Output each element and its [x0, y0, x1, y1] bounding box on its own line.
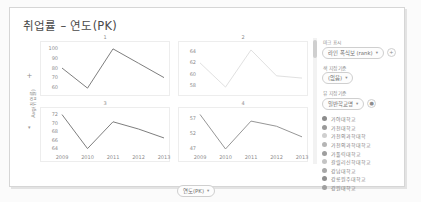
legend-item[interactable]: 갈릴리신학대학교 [322, 157, 414, 166]
x-axis-tick-label: 2011 [102, 154, 124, 160]
y-axis-tick-label: 57 [178, 116, 196, 121]
legend-color-swatch [322, 176, 327, 181]
chart-panel-2: 264626058 [178, 34, 308, 96]
x-axis-tick-label: 2012 [128, 154, 150, 160]
y-axis-tick-label: 70 [40, 121, 58, 126]
y-axis-tick-label: 60 [40, 85, 58, 90]
mark-value-pill[interactable]: 라인 폭식보 (rank) ▾ [322, 47, 384, 59]
x-axis-tick-label: 2009 [51, 154, 73, 160]
legend-item-label: 갈릴리신학대학교 [331, 158, 371, 165]
chart-panel-title: 1 [40, 34, 170, 41]
color-value-pill[interactable]: (없음) ▾ [322, 72, 353, 84]
legend-scrollbar[interactable] [313, 38, 317, 164]
x-axis-tick-label: 2013 [153, 154, 175, 160]
y-axis-caret-icon[interactable]: ▾ [28, 124, 31, 130]
chevron-down-icon: ▾ [207, 187, 209, 195]
x-axis-pill[interactable]: 연도(PK) ▾ [177, 185, 215, 197]
chart-line-series [178, 41, 308, 96]
chart-panel-4: 457524720092010201120122013 [178, 100, 308, 162]
plot-matrix: 1100908070602646260583727068666420092010… [40, 34, 308, 164]
legend-item-label: 가천대학교 [331, 124, 356, 131]
chevron-down-icon: ▾ [356, 100, 358, 108]
color-control: 색 지정 기준 (없음) ▾ [322, 64, 414, 85]
viz-card: 취업률 – 연도(PK) + Avg(취업률) ▾ 11009080706026… [9, 7, 405, 187]
legend-item[interactable]: 가천대학교 [322, 123, 414, 132]
y-axis-tick-label: 80 [40, 66, 58, 71]
legend-item[interactable]: 가톨릭대학교 [322, 149, 414, 158]
detail-more-icon[interactable]: ● [367, 99, 376, 108]
legend-color-swatch [322, 168, 327, 173]
legend-color-swatch [322, 142, 327, 147]
y-axis-tick-label: 64 [40, 146, 58, 151]
legend-item[interactable]: 가천의과학대학 [322, 132, 414, 141]
legend-item-label: 가천의과학대학 [331, 132, 366, 139]
legend-item-label: 가천의과학대학교 [331, 141, 371, 148]
y-axis-tick-label: 68 [40, 129, 58, 134]
legend-item-label: 강남대학교 [331, 167, 356, 174]
legend-color-swatch [322, 133, 327, 138]
chart-line-series [40, 41, 170, 96]
legend-item[interactable]: 강릉원주대학교 [322, 175, 414, 184]
screenshot-root: 취업률 – 연도(PK) + Avg(취업률) ▾ 11009080706026… [0, 0, 421, 202]
legend-scrollbar-thumb[interactable] [313, 40, 317, 58]
legend-color-swatch [322, 185, 327, 190]
page-title: 취업률 – 연도(PK) [23, 17, 117, 33]
legend-item-label: 가톨릭대학교 [331, 150, 361, 157]
y-axis-tick-label: 60 [178, 72, 196, 77]
y-axis-tick-label: 72 [40, 112, 58, 117]
y-axis-tick-label: 52 [178, 131, 196, 136]
detail-control: 뷰 지정 기준 일반학교명 ▾ ● [322, 89, 414, 110]
x-axis-tick-label: 2011 [240, 154, 262, 160]
chevron-down-icon: ▾ [376, 49, 378, 57]
legend-item-label: 강원대학교 [331, 184, 356, 191]
mark-control: 마크 표시 라인 폭식보 (rank) ▾ + [322, 38, 414, 59]
mark-label: 마크 표시 [323, 38, 414, 45]
y-axis-tick-label: 62 [178, 60, 196, 65]
color-legend: 가야대학교가천대학교가천의과학대학가천의과학대학교가톨릭대학교갈릴리신학대학교강… [322, 115, 414, 192]
chart-panel-title: 2 [178, 34, 308, 41]
x-axis-tick-label: 2013 [291, 154, 313, 160]
control-panel: 마크 표시 라인 폭식보 (rank) ▾ + 색 지정 기준 (없음) ▾ [322, 38, 414, 192]
legend-item[interactable]: 가야대학교 [322, 115, 414, 124]
chart-panel-title: 3 [40, 100, 170, 107]
y-axis-tick-label: 100 [40, 46, 58, 51]
x-axis-tick-label: 2009 [189, 154, 211, 160]
x-axis-tick-label: 2010 [215, 154, 237, 160]
color-label: 색 지정 기준 [323, 64, 414, 71]
y-axis-tick-label: 64 [178, 49, 196, 54]
legend-item[interactable]: 가천의과학대학교 [322, 140, 414, 149]
color-value-label: (없음) [328, 74, 342, 82]
y-axis-tick-label: 58 [178, 83, 196, 88]
legend-color-swatch [322, 125, 327, 130]
legend-item-label: 가야대학교 [331, 115, 356, 122]
legend-color-swatch [322, 159, 327, 164]
detail-label: 뷰 지정 기준 [323, 89, 414, 96]
mark-value-label: 라인 폭식보 (rank) [328, 49, 373, 57]
legend-item-label: 강릉원주대학교 [331, 175, 366, 182]
chevron-down-icon: ▾ [345, 74, 347, 82]
chart-panel-title: 4 [178, 100, 308, 107]
detail-value-pill[interactable]: 일반학교명 ▾ [322, 98, 364, 110]
x-axis-pill-wrap: 연도(PK) ▾ [177, 178, 215, 197]
legend-color-swatch [322, 116, 327, 121]
y-axis-tick-label: 90 [40, 56, 58, 61]
chart-panel-3: 3727068666420092010201120122013 [40, 100, 170, 162]
y-axis-title: Avg(취업률) [29, 62, 36, 146]
detail-value-label: 일반학교명 [328, 100, 353, 108]
y-axis-tick-label: 70 [40, 75, 58, 80]
legend-item[interactable]: 강남대학교 [322, 166, 414, 175]
chart-panel-1: 110090807060 [40, 34, 170, 96]
x-axis-tick-label: 2012 [266, 154, 288, 160]
legend-color-swatch [322, 151, 327, 156]
mark-add-icon[interactable]: + [387, 48, 396, 57]
y-axis-tick-label: 47 [178, 146, 196, 151]
legend-item[interactable]: 강원대학교 [322, 183, 414, 192]
x-axis-tick-label: 2010 [77, 154, 99, 160]
x-axis-pill-label: 연도(PK) [183, 187, 204, 195]
y-axis-tick-label: 66 [40, 138, 58, 143]
y-axis-title-group: + Avg(취업률) ▾ [24, 62, 36, 162]
